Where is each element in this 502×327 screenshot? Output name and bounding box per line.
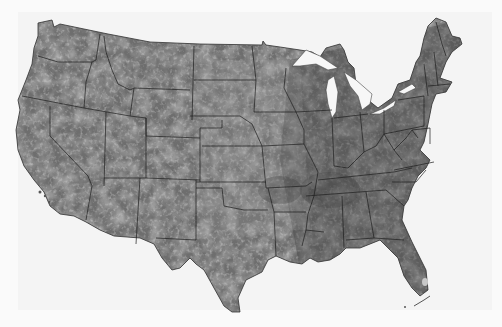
lake-okeechobee — [422, 278, 428, 286]
map-frame — [0, 0, 502, 327]
us-map — [0, 0, 502, 327]
